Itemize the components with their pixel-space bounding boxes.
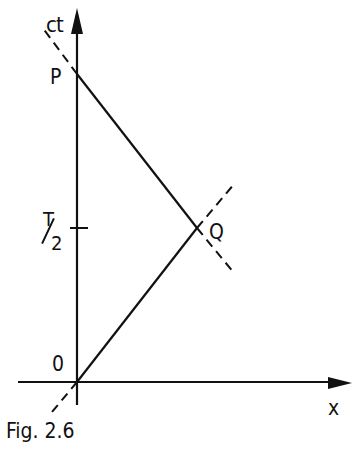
x-axis-arrowhead [328,377,352,389]
ct-axis-arrowhead [71,8,83,34]
spacetime-diagram: ct x P Q 0 T 2 Fig. 2.6 [0,0,353,456]
t-half-denominator: 2 [51,233,62,253]
x-axis-label: x [328,398,339,419]
origin-label: 0 [52,354,64,375]
dashed-extension-below-origin [52,382,77,412]
light-ray-q-to-p [77,74,197,228]
light-ray-o-to-q [77,228,197,382]
point-q-label: Q [209,222,224,243]
figure-caption: Fig. 2.6 [6,421,75,442]
point-p-label: P [50,67,61,88]
ct-axis-label: ct [46,14,63,36]
t-half-label: T 2 [43,209,73,259]
